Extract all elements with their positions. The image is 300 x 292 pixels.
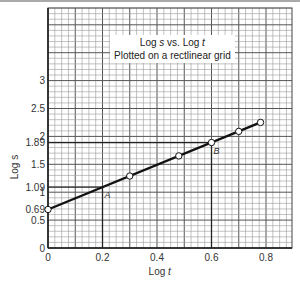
chart-subtitle: Plotted on a rectlinear grid [114, 49, 231, 62]
data-point [176, 153, 182, 159]
data-point [236, 128, 242, 134]
annotation-b: B [214, 146, 220, 156]
annotation-a: A [104, 190, 111, 200]
title-var-t: t [202, 37, 205, 48]
x-tick-label: 0.8 [259, 252, 273, 263]
chart-title: Log s vs. Log t [114, 36, 231, 49]
y-tick-label: 0.5 [31, 215, 45, 226]
chart-title-box: Log s vs. Log t Plotted on a rectlinear … [110, 35, 235, 63]
y-tick-label: 2.5 [31, 103, 45, 114]
y-tick-label: 1.5 [31, 159, 45, 170]
y-tick-label: 0.69 [26, 204, 46, 215]
x-tick-label: 0.2 [96, 252, 110, 263]
y-axis-label: Log s [9, 155, 20, 179]
x-axis-label: Log t [149, 266, 172, 277]
x-tick-label: 0 [45, 252, 51, 263]
y-tick-label: 1.09 [26, 182, 46, 193]
x-tick-label: 0.4 [150, 252, 164, 263]
title-text-mid: vs. Log [164, 37, 202, 48]
title-text: Log [140, 37, 159, 48]
y-tick-label: 3 [39, 75, 45, 86]
data-point [45, 206, 51, 212]
data-point [257, 119, 263, 125]
y-tick-labels: 00.50.6911.091.51.8922.53 [26, 75, 46, 253]
y-tick-label: 2 [39, 131, 45, 142]
x-tick-label: 0.6 [205, 252, 219, 263]
data-point [127, 173, 133, 179]
series-line [48, 122, 261, 209]
x-tick-labels: 00.20.40.60.8 [45, 252, 273, 263]
